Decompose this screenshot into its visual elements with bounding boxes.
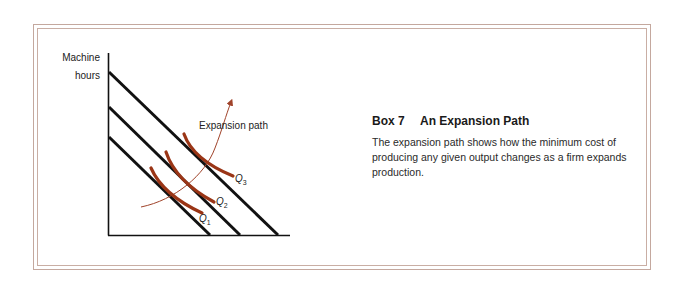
- expansion-path-label: Expansion path: [199, 120, 268, 131]
- box-heading: Box 7An Expansion Path: [372, 114, 529, 128]
- y-axis-label-line1: Machine: [62, 52, 100, 63]
- box-title: An Expansion Path: [420, 114, 529, 128]
- box-description: The expansion path shows how the minimum…: [372, 135, 632, 180]
- y-axis-label-line2: hours: [75, 70, 100, 81]
- isoquant-q2-label: Q2: [216, 196, 228, 209]
- isoquant-q3-label: Q3: [235, 173, 247, 186]
- box-number: Box 7: [372, 114, 420, 128]
